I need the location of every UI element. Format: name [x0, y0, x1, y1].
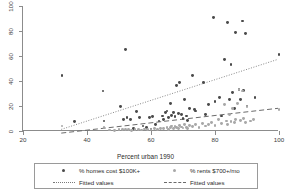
y-axis-tick-label: 20: [7, 98, 14, 114]
data-point: [210, 121, 213, 124]
y-axis-tick: [19, 31, 23, 32]
data-point: [223, 103, 226, 106]
y-axis-tick: [19, 81, 23, 82]
data-point: [108, 129, 111, 132]
x-axis-tick-label: 100: [268, 136, 290, 144]
legend-item-rents: % rents $700+/mo: [146, 166, 257, 174]
data-point: [231, 91, 234, 94]
data-point: [172, 111, 175, 114]
data-point: [231, 107, 234, 110]
legend-item-fitted-dashed: Fitted values: [146, 178, 257, 186]
y-axis-tick-label: 100: [7, 0, 14, 14]
y-axis-tick: [19, 106, 23, 107]
legend-marker-rents-icon: [164, 166, 186, 174]
legend-label-fitted-dotted: Fitted values: [79, 179, 114, 186]
fitted-line-dotted: [61, 59, 278, 129]
x-axis-tick-label: 60: [140, 136, 162, 144]
legend-item-homes: % homes cost $100K+: [35, 166, 146, 174]
data-point: [244, 32, 247, 35]
x-axis-tick: [87, 131, 88, 135]
legend-dashed-line-icon: [164, 178, 186, 186]
data-point: [183, 98, 186, 101]
legend-item-fitted-dotted: Fitted values: [35, 178, 146, 186]
data-point: [130, 129, 133, 132]
plot-canvas: [23, 6, 278, 130]
x-axis-tick: [279, 131, 280, 135]
data-point: [122, 118, 125, 121]
data-point: [194, 123, 197, 126]
chart-container: 020406080100 20406080100 Percent urban 1…: [0, 0, 291, 195]
data-point: [175, 84, 178, 87]
y-axis-tick: [19, 6, 23, 7]
data-point: [226, 123, 229, 126]
y-axis-tick-label: 80: [7, 23, 14, 39]
y-axis-tick: [19, 56, 23, 57]
data-point: [236, 102, 239, 105]
data-point: [180, 113, 183, 116]
data-point: [218, 96, 221, 99]
x-axis-tick-label: 20: [12, 136, 34, 144]
data-point: [191, 74, 194, 77]
x-axis-tick-label: 80: [204, 136, 226, 144]
plot-area: 020406080100 20406080100: [22, 6, 278, 131]
data-point: [146, 128, 149, 131]
data-point: [177, 127, 180, 130]
legend-label-fitted-dashed: Fitted values: [190, 179, 225, 186]
data-point: [169, 102, 172, 105]
legend-marker-homes-icon: [53, 166, 75, 174]
data-point: [244, 121, 247, 124]
y-axis-tick-label: 60: [7, 48, 14, 64]
legend-label-rents: % rents $700+/mo: [190, 167, 240, 174]
data-point: [252, 118, 255, 121]
x-axis-tick: [23, 131, 24, 135]
data-point: [73, 120, 76, 123]
data-point: [188, 107, 191, 110]
data-point: [278, 53, 281, 56]
data-point: [223, 58, 226, 61]
chart-legend: % homes cost $100K+ % rents $700+/mo Fit…: [34, 163, 258, 189]
x-axis-title: Percent urban 1990: [0, 153, 291, 160]
x-axis-tick-label: 40: [76, 136, 98, 144]
y-axis-tick-label: 40: [7, 73, 14, 89]
data-point: [278, 108, 281, 111]
data-point: [178, 81, 181, 84]
data-point: [217, 118, 220, 121]
x-axis-tick: [215, 131, 216, 135]
legend-label-homes: % homes cost $100K+: [79, 167, 140, 174]
data-point: [113, 129, 116, 132]
legend-dotted-line-icon: [53, 178, 75, 186]
x-axis-tick: [151, 131, 152, 135]
data-point: [129, 118, 132, 121]
data-point: [220, 122, 223, 125]
